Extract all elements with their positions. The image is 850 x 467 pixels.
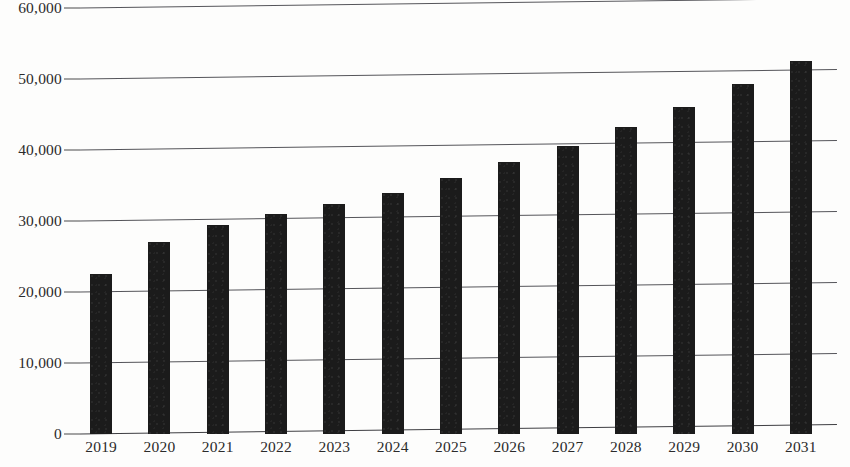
y-axis-tick-label: 0: [54, 425, 62, 443]
x-axis-tick-label: 2025: [435, 438, 467, 456]
bar: [382, 193, 404, 434]
x-axis-tick-label: 2030: [727, 438, 759, 456]
bar: [207, 225, 229, 434]
x-axis-tick-label: 2020: [144, 438, 176, 456]
x-axis-tick-label: 2022: [260, 438, 292, 456]
x-axis-tick-label: 2019: [85, 438, 117, 456]
y-axis-tick-label: 50,000: [18, 70, 62, 88]
x-axis-tick-label: 2027: [552, 438, 584, 456]
bar: [90, 274, 112, 434]
bar: [615, 127, 637, 434]
y-axis-tick-label: 20,000: [18, 283, 62, 301]
y-axis-tick-label: 30,000: [18, 212, 62, 230]
x-axis-tick-label: 2028: [610, 438, 642, 456]
bar: [498, 162, 520, 434]
y-axis-tick-mark: [64, 8, 80, 9]
x-axis-tick-label: 2021: [202, 438, 234, 456]
y-axis-tick-label: 10,000: [18, 354, 62, 372]
y-axis-tick-mark: [64, 221, 80, 222]
x-axis-tick-label: 2031: [785, 438, 817, 456]
bar: [732, 84, 754, 434]
bar-series: [80, 8, 838, 434]
y-axis-tick-mark: [64, 434, 80, 435]
y-axis-tick-label: 60,000: [18, 0, 62, 17]
bar: [265, 214, 287, 434]
bar-chart: 010,00020,00030,00040,00050,00060,000 20…: [0, 0, 850, 467]
x-axis: 2019202020212022202320242025202620272028…: [80, 438, 838, 466]
bar: [790, 61, 812, 434]
y-axis-tick-mark: [64, 150, 80, 151]
x-axis-tick-label: 2024: [377, 438, 409, 456]
bar: [673, 107, 695, 434]
y-axis-tick-mark: [64, 292, 80, 293]
x-axis-tick-label: 2029: [668, 438, 700, 456]
bar: [440, 178, 462, 434]
y-axis-tick-mark: [64, 79, 80, 80]
plot-area: 010,00020,00030,00040,00050,00060,000: [80, 8, 838, 434]
x-axis-tick-label: 2026: [493, 438, 525, 456]
bar: [323, 204, 345, 434]
y-axis-tick-mark: [64, 363, 80, 364]
y-axis-tick-label: 40,000: [18, 141, 62, 159]
bar: [148, 242, 170, 434]
bar: [557, 146, 579, 434]
x-axis-tick-label: 2023: [318, 438, 350, 456]
